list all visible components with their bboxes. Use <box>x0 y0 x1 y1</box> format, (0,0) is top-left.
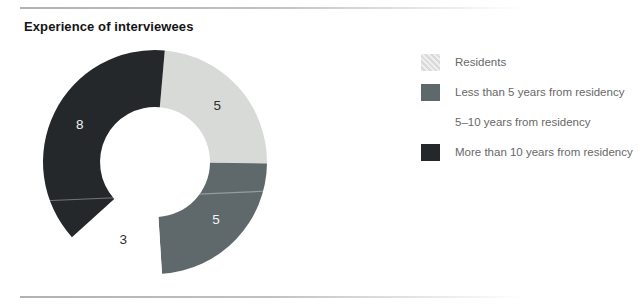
legend-label-3: More than 10 years from residency <box>455 146 633 158</box>
legend-swatch-0 <box>421 54 440 71</box>
legend-swatch-3 <box>421 144 440 161</box>
segment-value-label-2: 3 <box>120 232 128 247</box>
legend-swatch-2 <box>421 114 440 131</box>
legend-item-3: More than 10 years from residency <box>421 137 633 167</box>
legend-item-0: Residents <box>421 47 633 77</box>
segment-value-label-0: 5 <box>214 98 222 113</box>
legend-swatch-1 <box>421 84 440 101</box>
segment-value-label-3: 8 <box>76 117 84 132</box>
legend-item-2: 5–10 years from residency <box>421 107 633 137</box>
donut-segments-group: 5538 <box>43 50 267 274</box>
legend-label-2: 5–10 years from residency <box>455 116 591 128</box>
legend-label-1: Less than 5 years from residency <box>455 86 624 98</box>
legend: ResidentsLess than 5 years from residenc… <box>421 47 633 167</box>
segment-value-label-1: 5 <box>212 212 220 227</box>
bottom-rule <box>20 296 580 298</box>
legend-item-1: Less than 5 years from residency <box>421 77 633 107</box>
legend-label-0: Residents <box>455 56 506 68</box>
figure-canvas: Experience of interviewees 5538 Resident… <box>0 0 638 304</box>
